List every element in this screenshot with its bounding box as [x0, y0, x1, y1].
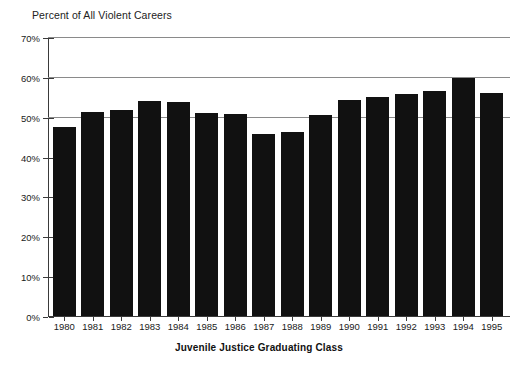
gridline-70: [48, 37, 510, 38]
x-axis-label-1985: 1985: [196, 321, 217, 332]
bar-1991: [366, 97, 389, 316]
y-tick-mark-10: [43, 277, 48, 278]
x-axis-label-1981: 1981: [82, 321, 103, 332]
x-axis-label-1990: 1990: [339, 321, 360, 332]
x-axis-label-1983: 1983: [139, 321, 160, 332]
y-axis-label: 70%: [21, 33, 40, 44]
x-axis-label-1988: 1988: [282, 321, 303, 332]
chart-container: Percent of All Violent Careers 0%10%20%3…: [0, 0, 518, 368]
bar-1984: [167, 102, 190, 316]
bar-1995: [480, 93, 503, 316]
x-axis-label-1984: 1984: [168, 321, 189, 332]
y-tick-mark-40: [43, 158, 48, 159]
y-axis-label: 40%: [21, 153, 40, 164]
bar-1983: [138, 101, 161, 316]
bar-1982: [110, 110, 133, 316]
y-tick-mark-20: [43, 237, 48, 238]
x-axis-label-1980: 1980: [54, 321, 75, 332]
y-axis-label: 50%: [21, 113, 40, 124]
x-axis-label-1993: 1993: [424, 321, 445, 332]
plot-area: 0%10%20%30%40%50%60%70%: [48, 38, 510, 317]
y-tick-inner-50: [49, 118, 54, 119]
y-axis-label: 60%: [21, 73, 40, 84]
x-axis-label-1995: 1995: [481, 321, 502, 332]
x-axis-label-1991: 1991: [367, 321, 388, 332]
y-axis-label: 0%: [26, 312, 40, 323]
chart-title: Percent of All Violent Careers: [32, 9, 172, 21]
bar-1994: [452, 78, 475, 316]
y-tick-inner-70: [49, 38, 54, 39]
bar-1988: [281, 132, 304, 316]
bar-1981: [81, 112, 104, 316]
x-axis-line: [48, 316, 510, 317]
bar-1987: [252, 134, 275, 316]
bar-1980: [53, 127, 76, 316]
bar-1992: [395, 94, 418, 316]
y-tick-mark-30: [43, 197, 48, 198]
x-axis-label-1989: 1989: [310, 321, 331, 332]
y-tick-inner-0: [49, 317, 54, 318]
bar-1989: [309, 115, 332, 316]
y-tick-mark-0: [43, 317, 48, 318]
y-axis-label: 30%: [21, 192, 40, 203]
x-axis-title: Juvenile Justice Graduating Class: [0, 342, 518, 353]
y-tick-mark-50: [43, 118, 48, 119]
y-tick-inner-60: [49, 78, 54, 79]
bar-1986: [224, 114, 247, 316]
x-axis-label-1986: 1986: [225, 321, 246, 332]
y-axis-line: [48, 38, 49, 317]
y-axis-label: 20%: [21, 232, 40, 243]
y-tick-mark-70: [43, 38, 48, 39]
bar-1990: [338, 100, 361, 316]
y-tick-mark-60: [43, 78, 48, 79]
x-axis-label-1987: 1987: [253, 321, 274, 332]
y-axis-label: 10%: [21, 272, 40, 283]
bar-1993: [423, 91, 446, 316]
x-axis-label-1992: 1992: [396, 321, 417, 332]
gridline-60: [48, 77, 510, 78]
x-axis-label-1994: 1994: [453, 321, 474, 332]
bar-1985: [195, 113, 218, 316]
x-axis-label-1982: 1982: [111, 321, 132, 332]
